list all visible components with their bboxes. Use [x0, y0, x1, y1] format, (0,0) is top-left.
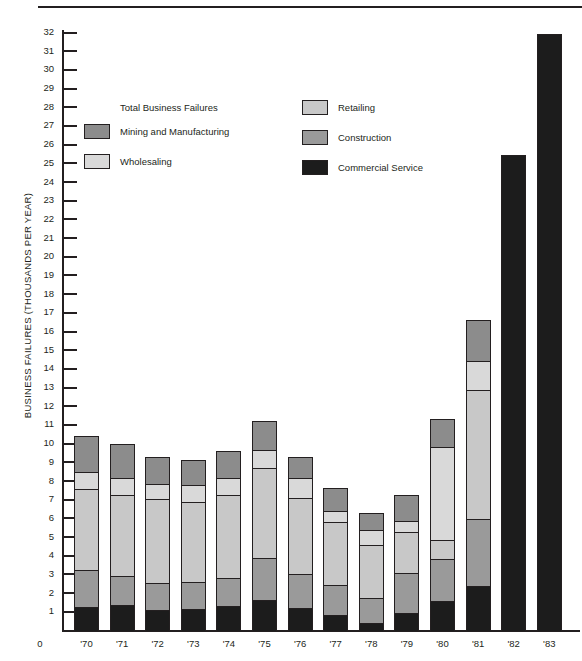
bar-segment-commercial-service — [145, 610, 170, 632]
y-tick-label-18: 18 — [26, 289, 54, 299]
bar-segment-construction — [145, 583, 170, 611]
bar-76[interactable] — [288, 457, 313, 632]
bar-segment-commercial-service — [181, 609, 206, 632]
bar-78[interactable] — [359, 513, 384, 632]
y-tick-14 — [64, 368, 77, 370]
bar-80[interactable] — [430, 419, 455, 632]
bar-segment-construction — [252, 558, 277, 601]
legend-item-commercial-service[interactable]: Commercial Service — [302, 160, 423, 175]
bar-segment-construction — [466, 519, 491, 587]
bar-segment-retailing — [288, 498, 313, 576]
bar-segment-mining-and-manufacturing — [74, 436, 99, 472]
y-tick-label-11: 11 — [26, 419, 54, 429]
bar-segment-retailing — [216, 495, 241, 579]
bar-70[interactable] — [74, 436, 99, 632]
legend-swatch-icon — [302, 130, 328, 145]
x-axis-label-83: '83 — [527, 638, 571, 649]
legend-item-wholesaling[interactable]: Wholesaling — [84, 154, 172, 169]
bar-segment-mining-and-manufacturing — [145, 457, 170, 485]
legend-swatch-icon — [84, 154, 110, 169]
chart-legend: Total Business Failures Mining and Manuf… — [84, 102, 484, 180]
bar-segment-mining-and-manufacturing — [466, 320, 491, 362]
bar-segment-total-business-failures — [501, 155, 526, 632]
bar-segment-mining-and-manufacturing — [288, 457, 313, 479]
bar-83[interactable] — [537, 34, 562, 632]
y-tick-24 — [64, 181, 77, 183]
bar-segment-retailing — [110, 495, 135, 577]
bar-segment-commercial-service — [430, 601, 455, 632]
y-tick-29 — [64, 88, 77, 90]
y-tick-label-31: 31 — [26, 46, 54, 56]
bar-segment-mining-and-manufacturing — [394, 495, 419, 522]
x-axis-origin-label: 0 — [18, 638, 62, 649]
bar-segment-construction — [430, 559, 455, 602]
bar-segment-commercial-service — [466, 586, 491, 632]
y-tick-label-5: 5 — [26, 532, 54, 542]
bar-segment-commercial-service — [394, 613, 419, 632]
bar-81[interactable] — [466, 320, 491, 632]
bar-segment-construction — [359, 598, 384, 623]
bar-segment-mining-and-manufacturing — [216, 451, 241, 479]
y-tick-label-12: 12 — [26, 401, 54, 411]
y-tick-label-4: 4 — [26, 550, 54, 560]
y-tick-label-6: 6 — [26, 513, 54, 523]
bar-75[interactable] — [252, 421, 277, 632]
bar-74[interactable] — [216, 451, 241, 632]
bar-segment-retailing — [466, 390, 491, 520]
y-tick-label-23: 23 — [26, 195, 54, 205]
y-tick-label-28: 28 — [26, 102, 54, 112]
y-tick-31 — [64, 50, 77, 52]
bar-segment-commercial-service — [359, 623, 384, 632]
y-tick-17 — [64, 312, 77, 314]
legend-item-mining-and-manufacturing[interactable]: Mining and Manufacturing — [84, 124, 229, 139]
bar-segment-commercial-service — [288, 608, 313, 632]
y-tick-label-1: 1 — [26, 606, 54, 616]
bar-71[interactable] — [110, 444, 135, 632]
legend-item-construction[interactable]: Construction — [302, 130, 391, 145]
y-tick-label-8: 8 — [26, 476, 54, 486]
bar-segment-wholesaling — [74, 472, 99, 491]
y-tick-label-16: 16 — [26, 326, 54, 336]
y-tick-label-17: 17 — [26, 307, 54, 317]
bar-segment-wholesaling — [288, 478, 313, 499]
bar-segment-mining-and-manufacturing — [252, 421, 277, 451]
bar-segment-mining-and-manufacturing — [430, 419, 455, 448]
bar-82[interactable] — [501, 155, 526, 632]
bar-segment-construction — [394, 573, 419, 614]
bar-segment-commercial-service — [252, 600, 277, 632]
y-tick-label-14: 14 — [26, 363, 54, 373]
y-tick-32 — [64, 32, 77, 34]
bar-segment-wholesaling — [110, 478, 135, 496]
bar-segment-retailing — [359, 545, 384, 599]
legend-item-label: Commercial Service — [338, 162, 423, 173]
bar-79[interactable] — [394, 495, 419, 632]
y-tick-11 — [64, 424, 77, 426]
bar-segment-construction — [110, 576, 135, 606]
bar-72[interactable] — [145, 457, 170, 632]
bar-segment-wholesaling — [181, 485, 206, 504]
y-tick-label-25: 25 — [26, 158, 54, 168]
legend-item-retailing[interactable]: Retailing — [302, 100, 375, 115]
bar-73[interactable] — [181, 460, 206, 632]
legend-swatch-icon — [302, 100, 328, 115]
y-tick-20 — [64, 256, 77, 258]
bar-segment-retailing — [74, 489, 99, 571]
y-tick-22 — [64, 218, 77, 220]
bar-77[interactable] — [323, 488, 348, 632]
bar-segment-construction — [323, 585, 348, 616]
bar-segment-construction — [181, 582, 206, 610]
bar-segment-mining-and-manufacturing — [323, 488, 348, 511]
y-tick-label-10: 10 — [26, 438, 54, 448]
y-tick-label-30: 30 — [26, 64, 54, 74]
stacked-bar-chart: BUSINESS FAILURES (THOUSANDS PER YEAR) 1… — [0, 0, 582, 661]
legend-item-label: Wholesaling — [120, 156, 172, 167]
bar-segment-construction — [216, 578, 241, 607]
bar-segment-mining-and-manufacturing — [359, 513, 384, 532]
bar-segment-retailing — [252, 468, 277, 560]
bar-segment-retailing — [145, 499, 170, 584]
bar-segment-wholesaling — [216, 478, 241, 496]
bar-segment-commercial-service — [110, 605, 135, 632]
bar-segment-commercial-service — [216, 606, 241, 632]
y-tick-label-15: 15 — [26, 345, 54, 355]
legend-swatch-icon — [302, 160, 328, 175]
